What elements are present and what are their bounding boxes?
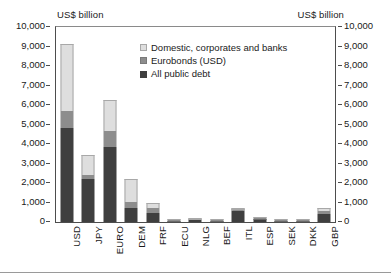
bar-segment-public [275,221,288,222]
y-left-tick-label: 4,000 [21,137,45,149]
bar-group [56,27,77,222]
y-right-tick-mark [338,26,342,27]
legend-swatch-icon [140,71,147,78]
bar-segment-public [125,208,138,222]
y-left-tick-mark [46,65,50,66]
left-axis-title: US$ billion [57,9,104,20]
bar-segment-public [296,221,309,222]
bar-stack [253,217,266,222]
bar-segment-public [103,147,116,222]
y-right-tick-mark [338,65,342,66]
legend-item-public: All public debt [140,68,287,80]
y-left-tick-mark [46,26,50,27]
legend-item-eurobonds: Eurobonds (USD) [140,55,287,67]
bar-segment-eurobonds [60,111,73,128]
y-right-tick-label: 3,000 [344,157,368,169]
bar-chart: US$ billion US$ billion 10,0009,0008,000… [0,0,391,274]
x-axis-label-nlg: NLG [200,226,211,246]
y-left-tick-label: 8,000 [21,59,45,71]
x-axis-label-euro: EURO [114,226,125,254]
bar-stack [60,44,73,222]
legend-swatch-icon [140,44,147,51]
bar-stack [296,219,309,222]
legend-item-domestic: Domestic, corporates and banks [140,42,287,54]
y-right-tick-mark [338,182,342,183]
y-right-tick-label: 9,000 [344,40,368,52]
bar-segment-public [318,214,331,222]
bar-segment-public [168,221,181,222]
bar-segment-public [189,220,202,222]
y-left-tick-mark [46,202,50,203]
x-axis-label-dem: DEM [136,226,147,248]
y-left-tick-label: 9,000 [21,40,45,52]
bar-stack [82,155,95,222]
y-left-tick-mark [46,163,50,164]
bar-group [77,27,98,222]
y-right-tick-mark [338,46,342,47]
x-axis-label-frf: FRF [157,226,168,245]
y-axis-right: 10,0009,0008,0007,0006,0005,0004,0003,00… [338,26,388,223]
bar-stack [189,218,202,222]
bar-group [120,27,141,222]
y-right-tick-label: 1,000 [344,196,368,208]
x-axis-label-gbp: GBP [329,226,340,247]
x-axis-label-sek: SEK [286,226,297,246]
y-left-tick-label: 7,000 [21,79,45,91]
y-right-tick-mark [338,124,342,125]
y-left-tick-label: 2,000 [21,176,45,188]
x-axis-label-dkk: DKK [307,226,318,246]
y-left-tick-mark [46,182,50,183]
x-axis-labels: USDJPYEURODEMFRFECUNLGBEFITLESPSEKDKKGBP [56,226,335,270]
bar-segment-domestic [60,44,73,112]
bar-group [99,27,120,222]
footer-divider [0,272,391,273]
y-right-tick-label: 4,000 [344,137,368,149]
y-right-tick-label: 0 [344,215,349,227]
bar-group [314,27,335,222]
y-left-tick-mark [46,104,50,105]
legend-label: Domestic, corporates and banks [151,42,287,54]
bar-segment-domestic [125,179,138,202]
y-left-tick-mark [46,221,50,222]
y-right-tick-mark [338,221,342,222]
y-left-tick-label: 3,000 [21,157,45,169]
bar-segment-domestic [82,155,95,175]
bar-stack [318,208,331,222]
bar-stack [168,219,181,222]
bar-stack [146,203,159,222]
bar-segment-public [146,213,159,222]
y-right-tick-mark [338,163,342,164]
right-axis-title: US$ billion [297,9,344,20]
legend-swatch-icon [140,57,147,64]
y-right-tick-label: 6,000 [344,98,368,110]
legend-label: Eurobonds (USD) [151,55,226,67]
bar-group [292,27,313,222]
bar-segment-domestic [103,100,116,131]
y-right-tick-label: 7,000 [344,79,368,91]
y-left-tick-label: 10,000 [16,20,45,32]
y-right-tick-mark [338,143,342,144]
bar-stack [125,179,138,222]
bar-segment-public [210,221,223,222]
bar-segment-public [253,219,266,222]
bar-stack [210,219,223,222]
x-axis-label-itl: ITL [243,226,254,240]
bar-stack [103,100,116,222]
legend-label: All public debt [151,68,210,80]
bar-segment-public [82,179,95,222]
y-right-tick-mark [338,104,342,105]
y-right-tick-label: 2,000 [344,176,368,188]
y-left-tick-label: 0 [40,215,45,227]
bar-segment-eurobonds [103,131,116,147]
bar-stack [275,219,288,222]
x-axis-label-ecu: ECU [179,226,190,247]
chart-legend: Domestic, corporates and banksEurobonds … [140,42,287,82]
y-right-tick-label: 8,000 [344,59,368,71]
x-axis-label-usd: USD [71,226,82,247]
y-left-tick-label: 6,000 [21,98,45,110]
x-axis-label-bef: BEF [221,226,232,245]
y-right-tick-mark [338,202,342,203]
x-axis-label-jpy: JPY [93,226,104,244]
bar-segment-public [232,211,245,222]
y-left-tick-label: 5,000 [21,118,45,130]
